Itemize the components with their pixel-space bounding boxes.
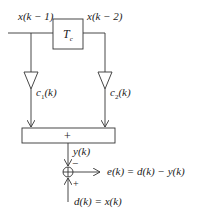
label-delay: Tc — [63, 28, 73, 43]
label-plus: + — [73, 179, 79, 189]
label-error: e(k) = d(k) − y(k) — [107, 166, 185, 177]
label-x-k-minus-1: x(k − 1) — [18, 11, 54, 22]
label-x-k-minus-2: x(k − 2) — [87, 11, 123, 22]
label-c1: c1(k) — [36, 87, 57, 101]
label-c2: c2(k) — [110, 87, 131, 101]
label-minus: − — [72, 158, 78, 169]
label-sum-plus: + — [64, 130, 71, 142]
label-y: y(k) — [73, 146, 90, 157]
diagram-canvas — [0, 0, 197, 216]
delay-output-line — [83, 33, 105, 72]
label-desired: d(k) = x(k) — [74, 196, 122, 207]
